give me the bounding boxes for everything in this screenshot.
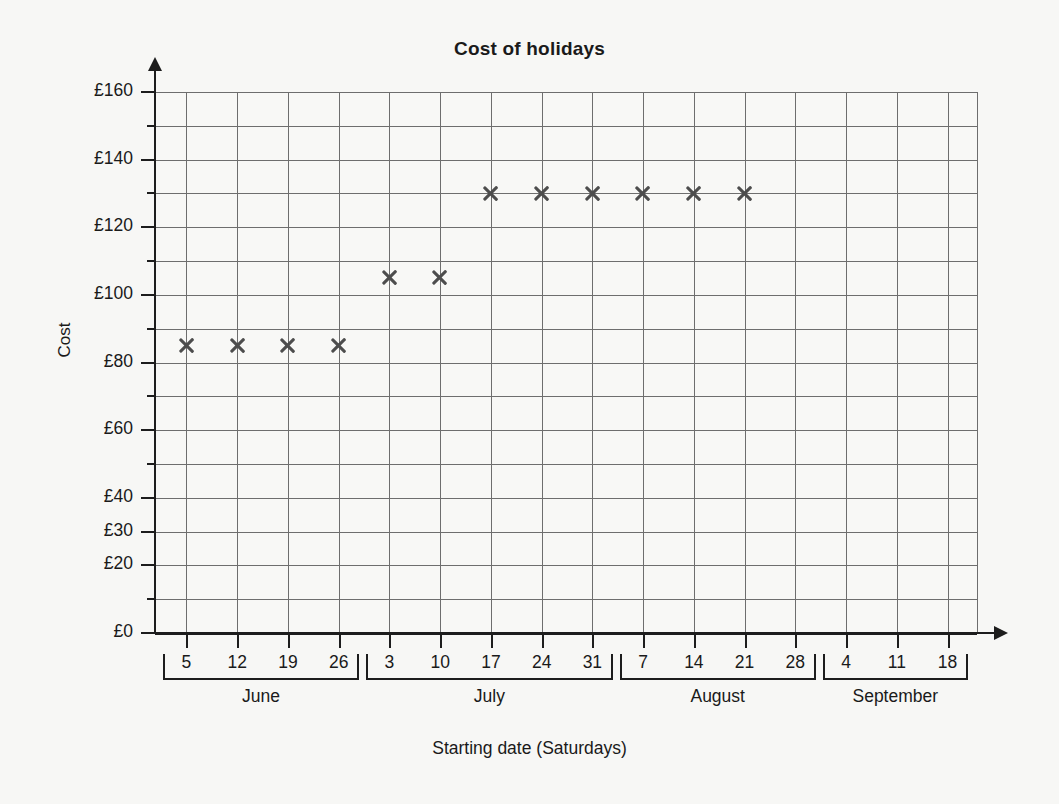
y-axis-tick-label: £140 [33,148,133,169]
y-axis-tick-label: £0 [33,621,133,642]
gridline-horizontal [155,464,977,465]
data-point-marker [228,336,247,355]
month-bracket [366,654,613,680]
x-axis-tick [694,634,696,648]
x-axis-tick [389,634,391,648]
data-point-marker [177,336,196,355]
gridline-vertical [491,92,492,633]
month-label: July [366,686,613,710]
gridline-horizontal [155,160,977,161]
gridline-horizontal [155,193,977,194]
x-axis-tick [745,634,747,648]
month-bracket [163,654,359,680]
y-axis-tick [141,632,156,634]
y-axis-tick [147,192,156,194]
x-axis-title: Starting date (Saturdays) [0,738,1059,759]
gridline-horizontal [155,599,977,600]
gridline-horizontal [155,565,977,566]
y-axis-tick [141,226,156,228]
gridline-horizontal [155,498,977,499]
month-bracket [620,654,816,680]
y-axis-tick [147,598,156,600]
y-axis-tick-label: £40 [33,486,133,507]
data-point-marker [481,184,500,203]
gridline-horizontal [155,329,977,330]
y-axis-tick [147,328,156,330]
x-axis-tick [795,634,797,648]
gridline-vertical [948,92,949,633]
gridline-horizontal [155,126,977,127]
x-axis-tick [643,634,645,648]
y-axis-tick [141,362,156,364]
gridline-vertical [389,92,390,633]
gridline-vertical [339,92,340,633]
gridline-vertical [795,92,796,633]
gridline-horizontal [155,295,977,296]
data-point-marker [431,268,450,287]
x-axis-tick [440,634,442,648]
y-axis-tick [147,463,156,465]
x-axis-line [155,632,997,634]
gridline-horizontal [155,227,977,228]
data-point-marker [380,268,399,287]
y-axis-tick-label: £20 [33,553,133,574]
month-label: September [823,686,968,710]
gridline-vertical [745,92,746,633]
gridline-horizontal [155,396,977,397]
y-axis-tick [141,564,156,566]
x-axis-tick [542,634,544,648]
y-axis-tick-label: £100 [33,283,133,304]
gridline-horizontal [155,363,977,364]
y-axis-tick-labels: £160£140£120£100£80£60£40£30£20£0 [33,0,133,804]
y-axis-tick-label: £120 [33,215,133,236]
data-point-marker [278,336,297,355]
gridline-vertical [440,92,441,633]
y-axis-tick [141,429,156,431]
x-axis-tick [237,634,239,648]
gridline-vertical [542,92,543,633]
month-label: August [620,686,816,710]
gridline-vertical [237,92,238,633]
gridline-vertical [592,92,593,633]
chart-page: Cost of holidays Cost £160£140£120£100£8… [0,0,1059,804]
x-axis-tick [948,634,950,648]
data-point-marker [329,336,348,355]
month-bracket [823,654,968,680]
y-axis-tick-label: £30 [33,520,133,541]
y-axis-line [154,68,156,634]
gridline-horizontal [155,532,977,533]
x-axis-tick [491,634,493,648]
y-axis-tick-label: £80 [33,351,133,372]
month-label: June [163,686,359,710]
data-point-marker [634,184,653,203]
x-axis-tick [846,634,848,648]
x-axis-tick [186,634,188,648]
y-axis-tick [147,260,156,262]
gridline-horizontal [155,261,977,262]
gridline-horizontal [155,92,977,93]
x-axis-arrow-icon [994,626,1008,640]
gridline-vertical [846,92,847,633]
x-axis-tick [592,634,594,648]
x-axis-tick [339,634,341,648]
y-axis-tick [141,159,156,161]
y-axis-tick [141,531,156,533]
x-axis-tick [897,634,899,648]
gridline-vertical [694,92,695,633]
y-axis-tick [141,497,156,499]
y-axis-tick [141,294,156,296]
y-axis-tick [147,395,156,397]
data-point-marker [735,184,754,203]
gridline-vertical [643,92,644,633]
y-axis-tick [141,91,156,93]
gridline-vertical-right-edge [977,92,978,633]
data-point-marker [532,184,551,203]
y-axis-tick-label: £160 [33,80,133,101]
gridline-horizontal [155,430,977,431]
gridline-vertical [897,92,898,633]
gridline-vertical [186,92,187,633]
data-point-marker [583,184,602,203]
plot-area [155,92,977,633]
y-axis-arrow-icon [148,57,162,71]
data-point-marker [684,184,703,203]
